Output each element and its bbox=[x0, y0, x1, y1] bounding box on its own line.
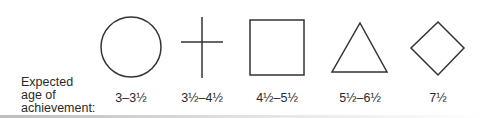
label-line-3: achievement: bbox=[21, 102, 95, 115]
circle-shape bbox=[101, 17, 161, 77]
age-square: 4½–5½ bbox=[232, 92, 322, 105]
expected-age-label: Expected age of achievement: bbox=[21, 76, 95, 115]
age-triangle: 5½–6½ bbox=[315, 92, 405, 105]
cross-shape bbox=[181, 17, 223, 78]
diamond-shape bbox=[411, 22, 464, 75]
triangle-shape bbox=[332, 23, 387, 72]
age-diamond: 7½ bbox=[393, 92, 483, 105]
square-shape bbox=[250, 20, 304, 75]
bottom-divider bbox=[0, 115, 484, 118]
